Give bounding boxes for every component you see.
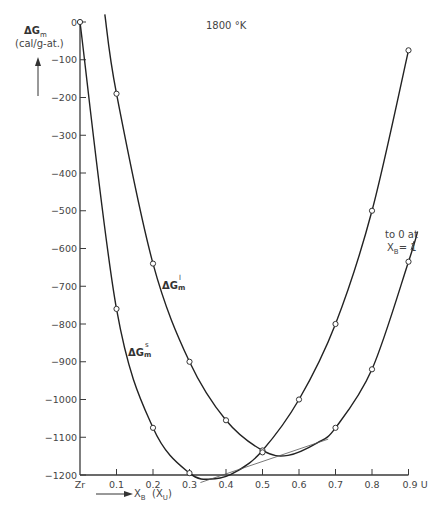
- y-label-main: ΔG: [24, 25, 40, 36]
- x-arrowhead-icon: [124, 491, 133, 497]
- note-x: X: [387, 242, 394, 253]
- y-tick-label: −400: [51, 168, 77, 179]
- y-tick-label: −800: [51, 319, 77, 330]
- x-label-paren-close: ): [168, 488, 172, 499]
- labels: 0−100−200−300−400−500−600−700−800−900−10…: [45, 17, 428, 491]
- solid-label-sub: m: [144, 351, 151, 359]
- data-point: [369, 367, 374, 372]
- axes: [35, 22, 409, 497]
- y-tick-label: −500: [51, 205, 77, 216]
- common-tangent-line: [200, 439, 328, 482]
- data-point: [150, 261, 155, 266]
- x-tick-label: 0.1: [109, 479, 124, 490]
- data-point: [260, 450, 265, 455]
- liquid-label-text: ΔG: [162, 280, 178, 291]
- solid-curve-label: ΔGsm: [128, 346, 152, 358]
- data-point: [114, 91, 119, 96]
- x-axis-label: XB (XU): [134, 488, 172, 502]
- x-tick-label: Zr: [75, 479, 86, 490]
- note-line-2: XB= 1: [387, 241, 418, 259]
- data-point: [187, 471, 192, 476]
- chart-title: 1800 °K: [206, 20, 246, 31]
- liquid-curve-label: ΔGlm: [162, 279, 186, 291]
- x-tick-label: 0.9 U: [403, 479, 428, 490]
- x-label-main: X: [134, 488, 141, 499]
- data-point: [223, 418, 228, 423]
- solid-curve: [80, 22, 409, 479]
- note-line-1: to 0 at: [385, 228, 418, 241]
- y-axis-unit: (cal/g-at.): [15, 38, 64, 49]
- y-tick-label: −900: [51, 356, 77, 367]
- solid-label-text: ΔG: [128, 347, 144, 358]
- data-point: [187, 359, 192, 364]
- y-tick-label: −1200: [45, 470, 77, 481]
- y-arrowhead-icon: [35, 57, 41, 66]
- liquid-label-scripts: lm: [178, 279, 186, 289]
- liquid-label-sup: l: [179, 274, 181, 282]
- y-axis-label: ΔGm: [24, 25, 47, 39]
- title-text: 1800 °K: [206, 20, 246, 31]
- solid-label-sup: s: [145, 341, 149, 349]
- data-point: [296, 397, 301, 402]
- data-point: [333, 425, 338, 430]
- y-tick-label: −200: [51, 92, 77, 103]
- data-point: [114, 306, 119, 311]
- endpoint-note: to 0 at XB= 1: [385, 228, 418, 259]
- data-point: [406, 48, 411, 53]
- y-tick-label: −700: [51, 281, 77, 292]
- x-tick-label: 0.7: [328, 479, 343, 490]
- x-label-paren: (X: [152, 488, 163, 499]
- curves: [80, 14, 418, 482]
- liquid-label-sub: m: [178, 284, 185, 292]
- x-tick-label: 0.3: [182, 479, 197, 490]
- data-point: [150, 425, 155, 430]
- y-tick-label: −1000: [45, 394, 77, 405]
- data-point: [333, 321, 338, 326]
- data-point: [406, 259, 411, 264]
- plot-area: 0−100−200−300−400−500−600−700−800−900−10…: [0, 0, 440, 514]
- data-point: [369, 208, 374, 213]
- x-label-sub: B: [141, 494, 146, 502]
- x-tick-label: 0.6: [291, 479, 306, 490]
- liquid-curve: [105, 14, 418, 456]
- y-tick-label: −300: [51, 130, 77, 141]
- x-tick-label: 0.4: [218, 479, 233, 490]
- y-tick-label: −1100: [45, 432, 77, 443]
- chart: 0−100−200−300−400−500−600−700−800−900−10…: [0, 0, 440, 514]
- note-eq: = 1: [399, 242, 417, 253]
- y-tick-label: 0: [71, 17, 77, 28]
- x-tick-label: 0.5: [255, 479, 270, 490]
- y-tick-label: −100: [51, 54, 77, 65]
- y-tick-label: −600: [51, 243, 77, 254]
- solid-label-scripts: sm: [144, 346, 152, 356]
- data-point: [77, 19, 82, 24]
- x-tick-label: 0.8: [364, 479, 379, 490]
